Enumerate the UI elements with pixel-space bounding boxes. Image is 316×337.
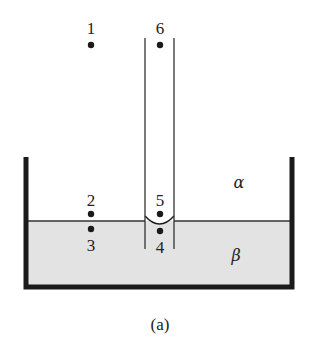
point-2-label: 2 (87, 191, 96, 210)
point-4-label: 4 (156, 238, 165, 257)
point-2: 2 (87, 191, 96, 217)
phase-diagram: 1 6 2 3 5 4 α β (a) (0, 0, 316, 337)
point-5: 5 (156, 191, 165, 217)
point-6-label: 6 (156, 19, 165, 38)
point-1-label: 1 (87, 19, 96, 38)
phase-alpha-label: α (234, 173, 245, 192)
point-1: 1 (87, 19, 96, 48)
point-2-dot (88, 211, 94, 217)
point-3-dot (88, 226, 94, 232)
point-5-dot (157, 211, 163, 217)
point-4-dot (157, 228, 163, 234)
point-3-label: 3 (87, 236, 96, 255)
point-5-label: 5 (156, 191, 165, 210)
point-1-dot (88, 42, 94, 48)
point-6-dot (157, 42, 163, 48)
phase-beta-label: β (230, 246, 240, 265)
figure-caption: (a) (151, 315, 170, 334)
